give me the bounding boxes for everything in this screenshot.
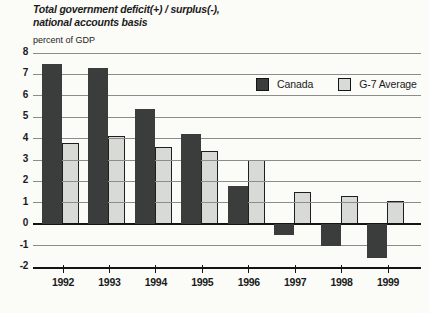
y-tick-label-4: 4	[4, 132, 28, 144]
y-tick-label-6: 6	[4, 89, 28, 101]
bar-canada-1995	[181, 134, 201, 224]
y-tick-label-8: 8	[4, 46, 28, 58]
bar-canada-1992	[42, 64, 62, 225]
g7-average-series-swatch	[338, 78, 351, 91]
gridline--1	[33, 245, 421, 246]
deficit-chart-figure: Total government deficit(+) / surplus(-)…	[0, 0, 429, 313]
gridline-8	[33, 53, 421, 54]
x-tick-1994	[155, 265, 156, 273]
bar-canada-1998	[321, 224, 341, 245]
bar-g-7-average-1999	[387, 201, 404, 225]
x-tick-1993	[109, 265, 110, 273]
x-tick-1995	[202, 265, 203, 273]
y-tick-label-2: 2	[4, 174, 28, 186]
bar-g-7-average-1995	[201, 151, 218, 224]
bar-canada-1996	[228, 186, 248, 225]
y-tick-label-3: 3	[4, 153, 28, 165]
y-tick-label--1: -1	[4, 239, 28, 251]
x-tick-1997	[295, 265, 296, 273]
y-tick-label-1: 1	[4, 196, 28, 208]
bar-g-7-average-1996	[248, 160, 265, 224]
x-tick-label-1996: 1996	[226, 276, 272, 288]
g7-average-legend-label: G-7 Average	[359, 78, 417, 90]
x-tick-label-1997: 1997	[272, 276, 318, 288]
bar-g-7-average-1992	[62, 143, 79, 224]
chart-title-line1: Total government deficit(+) / surplus(-)…	[33, 3, 220, 16]
x-tick-label-1994: 1994	[133, 276, 179, 288]
x-tick-1999	[388, 265, 389, 273]
x-tick-label-1993: 1993	[86, 276, 132, 288]
y-tick-label--2: -2	[4, 260, 28, 272]
bar-canada-1994	[135, 109, 155, 225]
x-tick-1996	[248, 265, 249, 273]
y-tick-label-7: 7	[4, 67, 28, 79]
legend-item-canada: Canada	[256, 78, 313, 91]
legend-item-g7-average: G-7 Average	[338, 78, 417, 91]
x-tick-1998	[341, 265, 342, 273]
plot-area: Canada G-7 Average	[33, 53, 421, 269]
canada-legend-label: Canada	[277, 78, 313, 90]
chart-title-line2: national accounts basis	[33, 16, 220, 29]
legend: Canada G-7 Average	[256, 76, 417, 92]
x-tick-label-1999: 1999	[365, 276, 411, 288]
y-axis-unit-label: percent of GDP	[33, 35, 220, 45]
bar-canada-1993	[88, 68, 108, 224]
y-tick-label-0: 0	[4, 217, 28, 229]
x-tick-1992	[63, 265, 64, 273]
bar-g-7-average-1998	[341, 196, 358, 224]
x-tick-label-1998: 1998	[319, 276, 365, 288]
x-tick-label-1995: 1995	[179, 276, 225, 288]
x-tick-label-1992: 1992	[40, 276, 86, 288]
y-tick-label-5: 5	[4, 110, 28, 122]
title-block: Total government deficit(+) / surplus(-)…	[33, 3, 220, 45]
bar-canada-1997	[274, 224, 294, 235]
canada-series-swatch	[256, 78, 269, 91]
bar-g-7-average-1997	[294, 192, 311, 224]
bar-canada-1999	[367, 224, 387, 258]
